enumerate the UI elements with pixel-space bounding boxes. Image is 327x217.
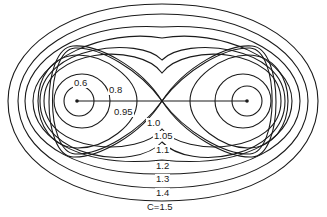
contour-diagram: 0.6 0.8 0.95 1.0 1.05 1.1 1.2 1.3 1.4 C=… — [0, 0, 327, 217]
label-c095: 0.95 — [113, 107, 134, 117]
label-c15: C=1.5 — [146, 202, 174, 212]
label-c13: 1.3 — [155, 174, 170, 184]
label-c14: 1.4 — [155, 188, 170, 198]
label-c06: 0.6 — [73, 78, 88, 88]
label-c10: 1.0 — [146, 118, 161, 128]
label-c12: 1.2 — [155, 161, 170, 171]
contour-lines — [0, 0, 327, 217]
label-c11: 1.1 — [155, 145, 170, 155]
left-mass-point — [75, 99, 79, 103]
label-c105: 1.05 — [153, 131, 174, 141]
right-mass-point — [245, 99, 249, 103]
label-c08: 0.8 — [108, 85, 123, 95]
